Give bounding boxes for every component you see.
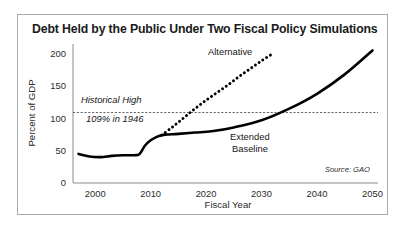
annotation-extended: Extended xyxy=(230,131,270,142)
annotation-baseline: Baseline xyxy=(232,143,268,154)
annotation-alternative: Alternative xyxy=(208,46,252,57)
x-axis: 200020102020203020402050 Fiscal Year xyxy=(73,183,383,210)
y-axis: 050100150200 Percent of GDP xyxy=(26,44,73,188)
y-tick-label: 50 xyxy=(56,145,66,156)
y-tick-label: 100 xyxy=(50,113,66,124)
x-tick-label: 2030 xyxy=(251,188,272,199)
y-tick-label: 0 xyxy=(61,177,66,188)
x-tick-label: 2050 xyxy=(362,188,383,199)
historical-high-label-line2: 109% in 1946 xyxy=(86,113,144,124)
y-tick-labels: 050100150200 xyxy=(50,48,66,188)
x-tick-label: 2010 xyxy=(140,188,161,199)
y-tick-label: 150 xyxy=(50,80,66,91)
x-tick-labels: 200020102020203020402050 xyxy=(85,188,383,199)
source-note: Source: GAO xyxy=(325,165,370,174)
x-tick-label: 2040 xyxy=(307,188,328,199)
chart-svg: 050100150200 Percent of GDP 200020102020… xyxy=(18,15,389,216)
plot-area: 050100150200 Percent of GDP 200020102020… xyxy=(18,15,389,216)
x-axis-title: Fiscal Year xyxy=(205,199,253,210)
x-tick-label: 2020 xyxy=(196,188,217,199)
y-tick-label: 200 xyxy=(50,48,66,59)
y-axis-title: Percent of GDP xyxy=(26,79,37,146)
figure-container: Debt Held by the Public Under Two Fiscal… xyxy=(17,14,388,215)
x-tick-label: 2000 xyxy=(85,188,106,199)
historical-high-label-line1: Historical High xyxy=(81,94,141,105)
